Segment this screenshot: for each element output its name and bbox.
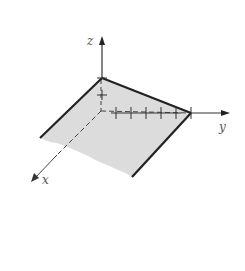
shaded-plane (40, 78, 191, 177)
coordinate-diagram: z y x (0, 0, 245, 271)
z-axis-label: z (86, 34, 94, 48)
z-axis-arrow-icon (99, 36, 105, 45)
x-axis-label: x (42, 173, 49, 187)
y-axis-arrow-icon (221, 110, 230, 116)
y-axis-label: y (218, 120, 226, 134)
